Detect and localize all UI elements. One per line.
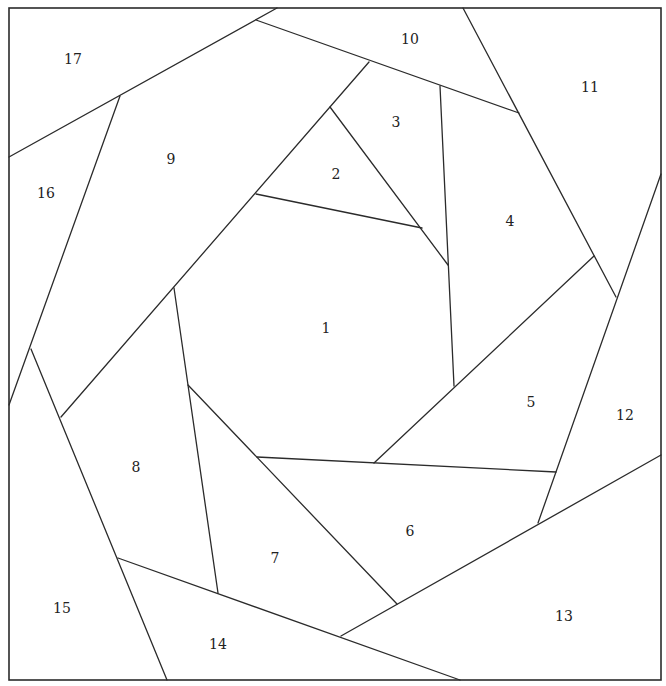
piece-label-2: 2: [332, 166, 341, 182]
piece-label-6: 6: [406, 523, 415, 539]
piece-label-7: 7: [271, 550, 280, 566]
piece-label-3: 3: [392, 114, 401, 130]
piece-label-1: 1: [322, 320, 331, 336]
piece-label-15: 15: [53, 600, 71, 616]
piece-label-11: 11: [581, 79, 599, 95]
pattern-diagram: 1234567891011121314151617: [0, 0, 666, 686]
piece-label-10: 10: [401, 31, 419, 47]
piece-label-16: 16: [37, 185, 55, 201]
piece-label-5: 5: [527, 394, 536, 410]
piece-label-8: 8: [132, 459, 141, 475]
block-border: [9, 8, 661, 680]
piece-label-13: 13: [555, 608, 573, 624]
piece-label-14: 14: [209, 636, 227, 652]
piece-label-12: 12: [616, 407, 634, 423]
piece-label-9: 9: [167, 151, 176, 167]
piece-label-4: 4: [506, 213, 515, 229]
piece-label-17: 17: [64, 51, 82, 67]
